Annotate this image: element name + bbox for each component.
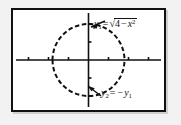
label-y1-radicand-exponent: 2 (132, 18, 135, 25)
label-y1-radicand-minus: − (120, 18, 128, 29)
figure-root: y1=√4−x2 y2=−y1 (0, 0, 181, 125)
label-y1-equation: y1=√4−x2 (94, 18, 137, 31)
label-y2-target-subscript: 1 (129, 92, 132, 99)
label-y1-radical-group: √4−x2 (110, 18, 137, 29)
label-y1-radicand: 4−x2 (114, 18, 137, 29)
plot-svg (13, 10, 164, 110)
plot-viewing-window: y1=√4−x2 y2=−y1 (11, 8, 166, 112)
label-y2-equals: = (109, 87, 117, 98)
callout-arrow-y2 (88, 86, 101, 96)
label-y2-minus: − (117, 87, 125, 98)
plot-canvas (13, 10, 164, 110)
label-y1-equals: = (102, 18, 110, 29)
label-y2-equation: y2=−y1 (101, 88, 132, 100)
